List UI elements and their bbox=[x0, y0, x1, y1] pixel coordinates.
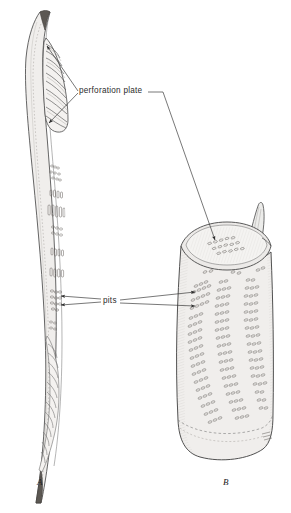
figure-root: perforation plate pits A B bbox=[0, 0, 291, 513]
label-perforation-plate: perforation plate bbox=[79, 86, 142, 95]
label-pits: pits bbox=[103, 296, 117, 305]
panel-a-drawing bbox=[25, 11, 68, 504]
leader-perforation-plate-b bbox=[148, 92, 215, 240]
panel-a-upper-plate bbox=[43, 38, 68, 132]
panel-b-drawing bbox=[177, 202, 274, 459]
leader-pits-a bbox=[61, 296, 101, 305]
panel-label-a: A bbox=[37, 477, 43, 487]
panel-label-b: B bbox=[223, 477, 229, 487]
figure-illustration bbox=[0, 0, 291, 513]
panel-a-pit-cluster-upper bbox=[50, 268, 64, 277]
